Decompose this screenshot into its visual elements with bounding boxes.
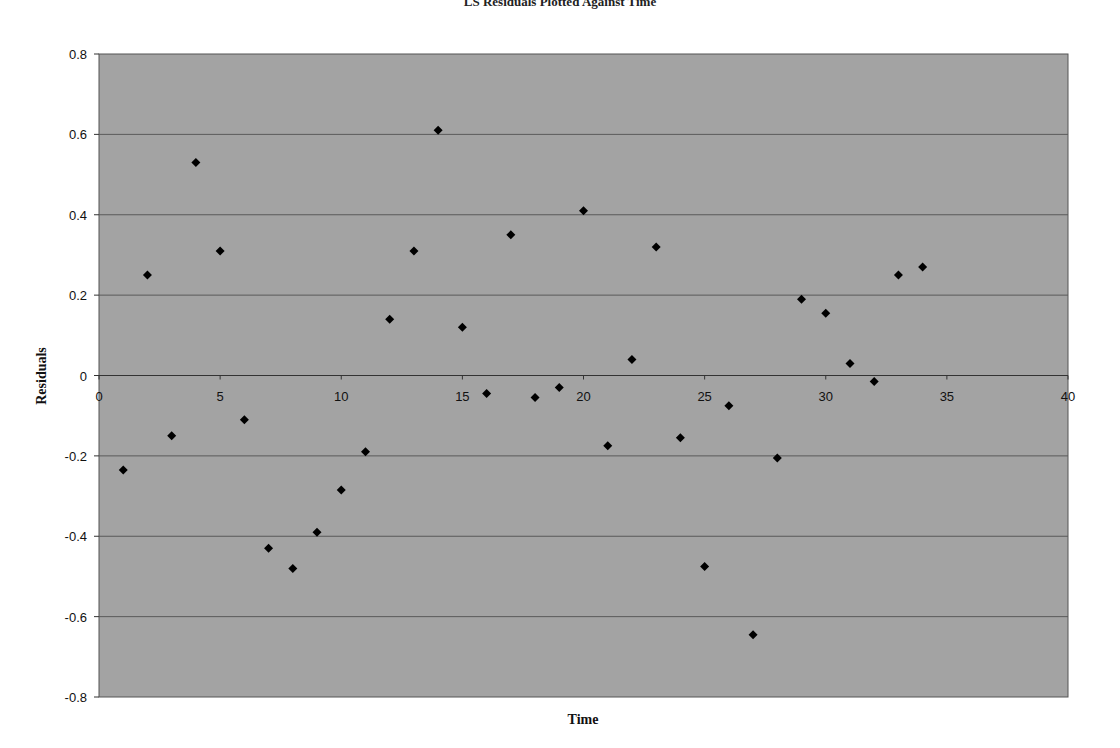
x-tick-label: 40 — [1061, 389, 1075, 404]
y-tick-label: 0 — [80, 369, 87, 384]
y-tick-label: 0.2 — [69, 288, 87, 303]
y-tick-label: -0.6 — [65, 610, 87, 625]
y-axis-ticks: -0.8-0.6-0.4-0.200.20.40.60.8 — [65, 47, 99, 705]
y-tick-label: 0.6 — [69, 127, 87, 142]
y-tick-label: -0.2 — [65, 449, 87, 464]
y-tick-label: 0.8 — [69, 47, 87, 62]
x-tick-label: 10 — [334, 389, 348, 404]
x-tick-label: 15 — [455, 389, 469, 404]
x-tick-label: 5 — [217, 389, 224, 404]
x-tick-label: 35 — [940, 389, 954, 404]
y-tick-label: 0.4 — [69, 208, 87, 223]
x-tick-label: 20 — [576, 389, 590, 404]
x-axis-label: Time — [568, 712, 599, 727]
x-tick-label: 25 — [697, 389, 711, 404]
y-tick-label: -0.4 — [65, 529, 87, 544]
y-axis-label: Residuals — [34, 347, 49, 405]
x-tick-label: 30 — [819, 389, 833, 404]
scatter-chart: -0.8-0.6-0.4-0.200.20.40.60.8 0510152025… — [0, 0, 1120, 748]
y-tick-label: -0.8 — [65, 690, 87, 705]
x-tick-label: 0 — [95, 389, 102, 404]
